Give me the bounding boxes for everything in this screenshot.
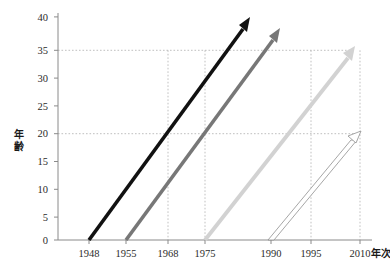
y-tick-label-30: 30 (38, 73, 49, 84)
y-axis-title-char-1: 年 (14, 128, 24, 140)
x-axis-ticks (89, 240, 360, 244)
series-arrowhead-cohort-1975 (343, 46, 355, 61)
x-tick-label-1975: 1975 (195, 248, 216, 259)
series-group (89, 17, 361, 240)
series-cohort-1990 (268, 131, 361, 240)
y-tick-label-35: 35 (38, 45, 49, 56)
series-cohort-1975 (205, 46, 355, 240)
y-axis-ticks (54, 17, 58, 240)
x-axis-title: 年次 (371, 247, 390, 259)
chart-container: 40 35 30 25 20 15 10 5 0 年 齢 1948 (0, 0, 390, 276)
y-tick-label-5: 5 (43, 212, 48, 223)
x-axis-tick-labels: 1948 1955 1968 1975 1990 1995 2010 年次 (79, 247, 390, 259)
x-tick-label-1995: 1995 (301, 248, 322, 259)
series-line-cohort-1948 (89, 29, 243, 240)
x-tick-label-1948: 1948 (79, 248, 100, 259)
y-axis-tick-labels: 40 35 30 25 20 15 10 5 0 (38, 12, 49, 246)
x-tick-label-1990: 1990 (261, 248, 282, 259)
x-tick-label-2010: 2010 (350, 248, 371, 259)
y-tick-label-25: 25 (38, 101, 49, 112)
series-line-cohort-1990 (268, 140, 357, 240)
y-tick-label-20: 20 (38, 128, 49, 139)
y-tick-label-15: 15 (38, 156, 49, 167)
x-tick-label-1968: 1968 (158, 248, 179, 259)
y-axis-title-char-2: 齢 (14, 140, 25, 152)
series-line-cohort-1955 (126, 40, 273, 240)
axes-group (58, 13, 372, 240)
x-tick-label-1955: 1955 (116, 248, 137, 259)
cohort-age-line-chart: 40 35 30 25 20 15 10 5 0 年 齢 1948 (0, 0, 390, 276)
series-cohort-1948 (89, 17, 250, 240)
y-tick-label-0: 0 (43, 235, 48, 246)
y-tick-label-40: 40 (38, 12, 49, 23)
series-line-cohort-1975 (205, 58, 348, 240)
gridlines-group (58, 50, 360, 240)
y-axis-title: 年 齢 (14, 128, 25, 152)
y-tick-label-10: 10 (38, 184, 49, 195)
